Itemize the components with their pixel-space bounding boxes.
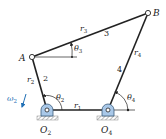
ground-o2	[37, 116, 58, 120]
label-theta4: θ4	[127, 93, 136, 103]
label-theta3: θ3	[74, 44, 83, 54]
ground-o4	[97, 116, 118, 120]
label-r1: r1	[74, 101, 81, 111]
omega2-arrow	[22, 94, 26, 107]
label-a: A	[18, 53, 26, 63]
joint-a	[29, 54, 34, 59]
label-theta2: θ2	[56, 93, 64, 103]
label-o4: O4	[101, 125, 112, 136]
label-omega2: ω2	[7, 94, 17, 104]
link-r3	[32, 13, 148, 57]
theta3-arc	[71, 43, 72, 57]
label-link-4: 4	[117, 65, 122, 74]
four-bar-linkage-diagram: A B O2 O4 r1 r2 2 r3 3 r4 4 θ2 θ3 θ4 ω2	[0, 0, 166, 139]
label-r2: r2	[27, 75, 34, 85]
label-link-2: 2	[43, 74, 48, 83]
label-b: B	[152, 8, 160, 18]
label-o2: O2	[40, 125, 51, 136]
label-r4: r4	[134, 48, 142, 58]
label-link-3: 3	[104, 29, 109, 38]
joint-b	[145, 10, 150, 15]
label-r3: r3	[80, 24, 88, 34]
